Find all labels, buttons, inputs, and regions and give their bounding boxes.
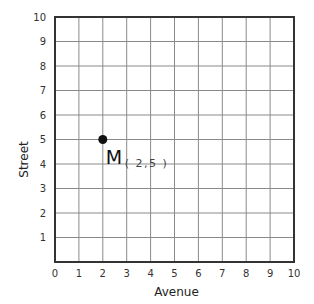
coordinate-grid-chart: 012345678910 12345678910 Avenue Street M… <box>0 0 314 304</box>
data-points: M( 2,5 ) <box>98 135 168 170</box>
x-tick-label: 2 <box>100 268 106 279</box>
y-axis-label: Street <box>17 141 31 178</box>
y-tick-label: 6 <box>40 110 46 121</box>
y-tick-label: 4 <box>40 159 46 170</box>
y-tick-label: 7 <box>40 85 46 96</box>
x-tick-label: 1 <box>76 268 82 279</box>
point-marker <box>98 135 107 144</box>
x-tick-label: 3 <box>124 268 130 279</box>
point-label: M <box>106 146 122 168</box>
y-tick-label: 9 <box>40 36 46 47</box>
grid-lines <box>55 17 294 262</box>
x-axis-ticks: 012345678910 <box>52 268 301 279</box>
point-coordinates-label: ( 2,5 ) <box>125 157 169 170</box>
y-tick-label: 2 <box>40 208 46 219</box>
y-tick-label: 10 <box>33 12 46 23</box>
x-tick-label: 9 <box>267 268 273 279</box>
x-axis-label: Avenue <box>154 285 199 299</box>
y-tick-label: 5 <box>40 134 46 145</box>
y-tick-label: 8 <box>40 61 46 72</box>
x-tick-label: 5 <box>171 268 177 279</box>
y-tick-label: 1 <box>40 232 46 243</box>
x-tick-label: 7 <box>219 268 225 279</box>
x-tick-label: 8 <box>243 268 249 279</box>
y-axis-ticks: 12345678910 <box>33 12 46 244</box>
x-tick-label: 6 <box>195 268 201 279</box>
x-tick-label: 10 <box>288 268 301 279</box>
y-tick-label: 3 <box>40 183 46 194</box>
x-tick-label: 4 <box>147 268 153 279</box>
x-tick-label: 0 <box>52 268 58 279</box>
